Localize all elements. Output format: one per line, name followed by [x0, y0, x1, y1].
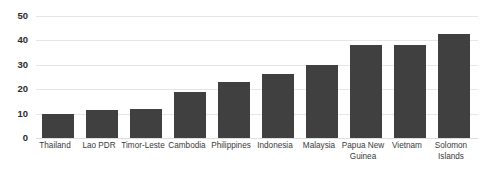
y-tick-label: 40: [2, 36, 28, 46]
x-tick-label-papua-new-guinea: Papua New Guinea: [338, 141, 388, 162]
gridline-0-baseline: [36, 138, 478, 139]
bar-philippines[interactable]: [218, 82, 250, 138]
bar-slot: [388, 0, 432, 138]
bar-papua-new-guinea[interactable]: [350, 45, 382, 138]
bar-slot: [256, 0, 300, 138]
y-tick-label: 30: [2, 60, 28, 70]
bar-slot: [432, 0, 476, 138]
x-tick-label-timor-leste: Timor-Leste: [118, 141, 168, 152]
x-tick-label-thailand: Thailand: [30, 141, 80, 152]
bar-chart: 50 40 30 20 10 0: [0, 0, 480, 172]
x-tick-label-solomon-islands: Solomon Islands: [426, 141, 476, 162]
y-tick-label: 20: [2, 84, 28, 94]
x-tick-label-philippines: Philippines: [206, 141, 256, 152]
bar-slot: [168, 0, 212, 138]
bar-indonesia[interactable]: [262, 74, 294, 138]
bar-slot: [212, 0, 256, 138]
x-tick-label-lao-pdr: Lao PDR: [74, 141, 124, 152]
bar-solomon-islands[interactable]: [438, 34, 470, 138]
x-tick-label-vietnam: Vietnam: [382, 141, 432, 152]
x-tick-label-indonesia: Indonesia: [250, 141, 300, 152]
bar-lao-pdr[interactable]: [86, 110, 118, 138]
bar-slot: [300, 0, 344, 138]
bar-slot: [80, 0, 124, 138]
x-tick-label-cambodia: Cambodia: [162, 141, 212, 152]
bar-timor-leste[interactable]: [130, 109, 162, 138]
y-tick-label: 10: [2, 109, 28, 119]
bar-cambodia[interactable]: [174, 92, 206, 138]
bar-vietnam[interactable]: [394, 45, 426, 138]
bar-slot: [124, 0, 168, 138]
bar-slot: [344, 0, 388, 138]
y-tick-label: 50: [2, 11, 28, 21]
y-tick-label: 0: [2, 133, 28, 143]
bar-series: [36, 0, 478, 138]
bar-thailand[interactable]: [42, 114, 74, 138]
x-tick-label-malaysia: Malaysia: [294, 141, 344, 152]
bar-slot: [36, 0, 80, 138]
x-axis: Thailand Lao PDR Timor-Leste Cambodia Ph…: [36, 141, 478, 172]
bar-malaysia[interactable]: [306, 65, 338, 138]
